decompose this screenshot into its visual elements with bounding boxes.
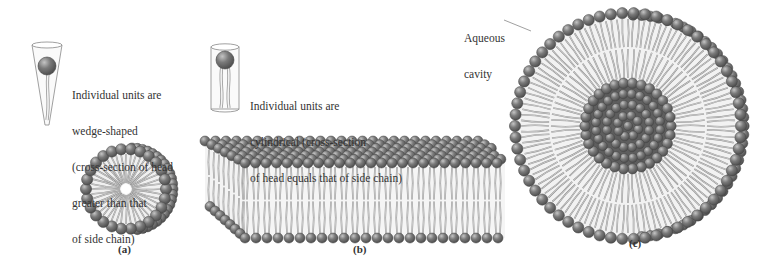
caption-line: greater than that bbox=[72, 197, 173, 209]
caption-line: wedge-shaped bbox=[72, 125, 173, 137]
caption-wedge-shaped: Individual units are wedge-shaped (cross… bbox=[72, 65, 173, 267]
panel-label-b: (b) bbox=[353, 243, 366, 255]
caption-line: Individual units are bbox=[250, 100, 402, 112]
caption-line: Individual units are bbox=[72, 89, 173, 101]
panel-label-a: (a) bbox=[118, 243, 131, 255]
lipid-aggregates-figure: Individual units are wedge-shaped (cross… bbox=[0, 0, 773, 267]
aqueous-cavity-label: Aqueous cavity bbox=[464, 8, 505, 104]
wedge-shaped-unit-icon bbox=[32, 42, 62, 125]
panel-label-c: (c) bbox=[629, 237, 641, 249]
caption-line: cylindrical (cross-section bbox=[250, 136, 402, 148]
caption-cylindrical: Individual units are cylindrical (cross-… bbox=[250, 76, 402, 208]
callout-line: Aqueous bbox=[464, 32, 505, 44]
liposome-diagram bbox=[509, 8, 749, 245]
caption-line: (cross-section of head bbox=[72, 161, 173, 173]
aqueous-cavity-callout-line bbox=[504, 20, 531, 31]
cylindrical-unit-icon bbox=[211, 44, 239, 112]
caption-line: of head equals that of side chain) bbox=[250, 172, 402, 184]
callout-line: cavity bbox=[464, 68, 505, 80]
